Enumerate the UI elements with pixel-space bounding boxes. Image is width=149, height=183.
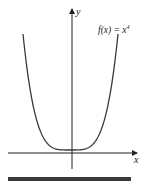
function-curve <box>23 34 118 150</box>
function-label-base: f(x) = x <box>98 25 127 36</box>
function-label: f(x) = x4 <box>98 24 130 36</box>
x-axis-label: x <box>133 154 139 165</box>
chart-plot: y x f(x) = x4 <box>0 0 149 183</box>
chart-figure: y x f(x) = x4 <box>0 0 149 183</box>
bottom-bar <box>8 177 131 181</box>
y-axis-label: y <box>75 6 81 17</box>
function-label-exponent: 4 <box>127 24 130 30</box>
